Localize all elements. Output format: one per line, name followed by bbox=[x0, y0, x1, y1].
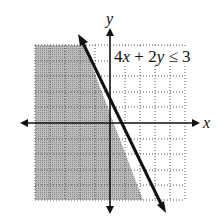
inequality-label: 4x + 2y ≤ 3 bbox=[114, 47, 191, 66]
y-axis-label: y bbox=[104, 10, 114, 28]
x-axis-label: x bbox=[202, 114, 210, 131]
inequality-graph: x y 4x + 2y ≤ 3 bbox=[0, 0, 222, 224]
